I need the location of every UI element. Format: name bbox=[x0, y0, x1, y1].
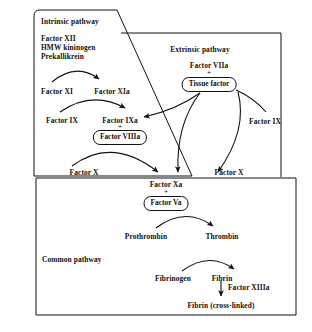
plus-factor-viia-tissue-factor: + bbox=[207, 69, 211, 77]
node-factor-va: Factor Va bbox=[144, 196, 189, 211]
common-pathway-title: Common pathway bbox=[42, 255, 102, 264]
extrinsic-pathway-panel-border bbox=[121, 33, 281, 177]
node-factor-x-extrinsic: Factor X bbox=[215, 168, 244, 177]
node-factor-viiia: Factor VIIIa bbox=[93, 130, 147, 145]
node-factor-xi: Factor XI bbox=[41, 87, 73, 96]
node-factor-ix-extrinsic: Factor IX bbox=[249, 117, 281, 126]
arrow-factor-x-right-to-factor-xa bbox=[218, 92, 241, 172]
coagulation-cascade-diagram: Intrinsic pathway Factor XII HMW kininog… bbox=[0, 0, 312, 332]
node-prothrombin: Prothrombin bbox=[125, 232, 167, 241]
arrow-fibrinogen-to-fibrin bbox=[182, 260, 234, 271]
extrinsic-pathway-title: Extrinsic pathway bbox=[170, 45, 229, 54]
plus-factor-xa-va: + bbox=[164, 188, 168, 196]
node-fibrin: Fibrin bbox=[212, 274, 233, 283]
label-factor-xiiia: Factor XIIIa bbox=[228, 283, 270, 292]
arrow-tissue-factor-to-factor-xa-inner bbox=[178, 93, 200, 172]
node-factor-xia: Factor XIa bbox=[94, 87, 130, 96]
node-fibrin-cross-linked: Fibrin (cross-linked) bbox=[187, 301, 254, 310]
node-fibrinogen: Fibrinogen bbox=[155, 274, 191, 283]
node-thrombin: Thrombin bbox=[205, 232, 238, 241]
node-tissue-factor: Tissue factor bbox=[182, 77, 237, 92]
arrow-initiators-to-factor-xia bbox=[52, 71, 99, 82]
arrow-factor-xia-to-factor-ixa bbox=[60, 100, 125, 112]
node-factor-ix-intrinsic: Factor IX bbox=[46, 116, 78, 125]
node-factor-x-intrinsic: Factor X bbox=[70, 168, 99, 177]
intrinsic-pathway-title: Intrinsic pathway bbox=[41, 17, 99, 26]
intrinsic-initiators-line-3: Prekallikrein bbox=[41, 52, 84, 62]
arrow-prothrombin-to-thrombin bbox=[156, 216, 213, 228]
